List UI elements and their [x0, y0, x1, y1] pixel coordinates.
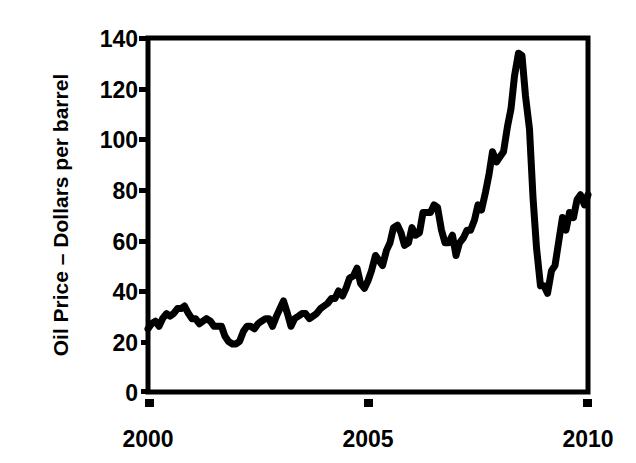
y-tick-label-80: 80 [112, 178, 138, 204]
x-tick-label-2000: 2000 [122, 426, 173, 452]
x-tick-mark-2005 [364, 399, 373, 407]
y-tick-label-20: 20 [112, 330, 138, 356]
x-tick-label-2005: 2005 [342, 426, 393, 452]
y-tick-labels: 140 120 100 80 60 40 20 0 [100, 26, 138, 406]
y-tick-label-40: 40 [112, 279, 138, 305]
x-tick-label-2010: 2010 [562, 426, 613, 452]
y-tick-label-60: 60 [112, 229, 138, 255]
x-tick-mark-2010 [583, 399, 592, 407]
y-tick-label-120: 120 [100, 77, 138, 103]
y-tick-label-0: 0 [125, 380, 138, 406]
y-axis-title: Oil Price – Dollars per barrel [49, 74, 72, 356]
chart-canvas: Oil Price – Dollars per barrel 140 120 1… [0, 0, 636, 463]
oil-price-line [148, 53, 588, 344]
oil-price-chart-figure: Oil Price – Dollars per barrel 140 120 1… [0, 0, 636, 463]
x-tick-marks [145, 399, 592, 407]
x-tick-labels: 2000 2005 2010 [122, 426, 613, 452]
y-tick-label-100: 100 [100, 127, 138, 153]
x-tick-mark-2000 [145, 399, 154, 407]
y-tick-label-140: 140 [100, 26, 138, 52]
